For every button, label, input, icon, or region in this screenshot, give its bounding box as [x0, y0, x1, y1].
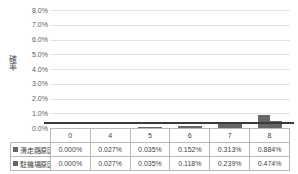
- y-axis-tick-label: 1.0%: [22, 110, 48, 117]
- table-cell-value: 0.152%: [170, 143, 210, 157]
- table-column-header: 7: [210, 129, 250, 143]
- legend-entry: 滑走路原因: [11, 143, 51, 157]
- legend-label: 駐機場原因: [20, 161, 50, 168]
- reference-line-1-percent: [44, 122, 294, 124]
- bar-cluster: [170, 10, 210, 128]
- legend-swatch-icon: [13, 161, 18, 166]
- bar-cluster: [210, 10, 250, 128]
- data-table: 045678滑走路原因0.000%0.027%0.035%0.152%0.313…: [10, 128, 290, 171]
- y-axis-tick-label: 3.0%: [22, 80, 48, 87]
- plot-area: [50, 10, 290, 128]
- table-cell-value: 0.000%: [50, 143, 90, 157]
- table-cell-value: 0.474%: [250, 157, 290, 171]
- legend-entry: 駐機場原因: [11, 157, 51, 171]
- table-cell-value: 0.027%: [90, 143, 130, 157]
- table-corner-cell: [11, 129, 51, 143]
- bar-cluster: [90, 10, 130, 128]
- table-cell-value: 0.027%: [90, 157, 130, 171]
- y-axis-tick-label: 5.0%: [22, 51, 48, 58]
- table-header-row: 045678: [11, 129, 290, 143]
- legend-label: 滑走路原因: [20, 147, 50, 154]
- table-column-header: 6: [170, 129, 210, 143]
- table-cell-value: 0.035%: [130, 157, 170, 171]
- bar-cluster: [250, 10, 290, 128]
- bar-cluster: [130, 10, 170, 128]
- table-cell-value: 0.035%: [130, 143, 170, 157]
- bar-series-group: [50, 10, 290, 128]
- y-axis-tick-label: 8.0%: [22, 7, 48, 14]
- table-cell-value: 0.884%: [250, 143, 290, 157]
- table-column-header: 5: [130, 129, 170, 143]
- table-column-header: 4: [90, 129, 130, 143]
- table-cell-value: 0.118%: [170, 157, 210, 171]
- chart-container: 確率 8.0%7.0%6.0%5.0%4.0%3.0%2.0%1.0%0.0% …: [0, 0, 298, 174]
- table-column-header: 8: [250, 129, 290, 143]
- y-axis-tick-labels: 8.0%7.0%6.0%5.0%4.0%3.0%2.0%1.0%0.0%: [18, 0, 48, 130]
- y-axis-tick-label: 2.0%: [22, 95, 48, 102]
- table-cell-value: 0.313%: [210, 143, 250, 157]
- table-cell-value: 0.239%: [210, 157, 250, 171]
- table-column-header: 0: [50, 129, 90, 143]
- legend-swatch-icon: [13, 147, 18, 152]
- table-row: 滑走路原因0.000%0.027%0.035%0.152%0.313%0.884…: [11, 143, 290, 157]
- bar-cluster: [50, 10, 90, 128]
- y-axis-title: 確率: [3, 55, 16, 71]
- y-axis-tick-label: 4.0%: [22, 66, 48, 73]
- y-axis-tick-label: 7.0%: [22, 21, 48, 28]
- y-axis-tick-label: 6.0%: [22, 36, 48, 43]
- table-cell-value: 0.000%: [50, 157, 90, 171]
- table-row: 駐機場原因0.000%0.027%0.035%0.118%0.239%0.474…: [11, 157, 290, 171]
